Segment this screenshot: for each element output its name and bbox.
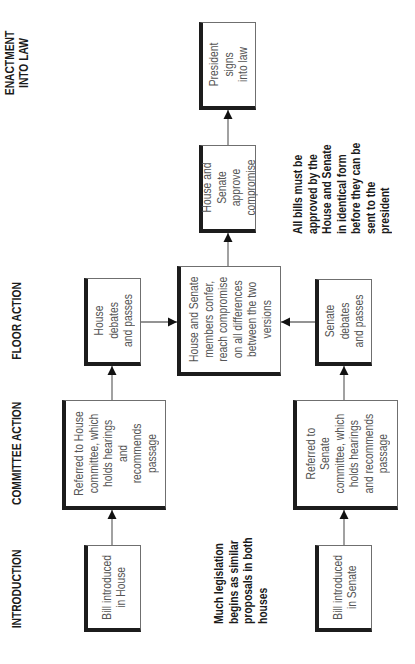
text-line: and passes	[121, 287, 136, 355]
text-line: reach compromise	[216, 277, 231, 363]
stage-heading-introduction: INTRODUCTION	[10, 544, 24, 634]
node-senate-debates: Senate debates and passes	[315, 279, 372, 366]
node-bill-introduced-senate-text: Bill introduced in Senate	[331, 553, 360, 621]
stage-heading-committee-action: COMMITTEE ACTION	[10, 405, 24, 505]
text-line: House and Senate	[320, 122, 335, 234]
text-line: Bill introduced	[331, 555, 346, 620]
text-line: passage	[145, 410, 160, 497]
stage-heading-introduction-text: INTRODUCTION	[10, 550, 24, 629]
text-line: holds hearings	[347, 414, 362, 494]
node-approve-compromise-text: House and Senate approve compromise	[200, 152, 258, 223]
text-line: Bill introduced	[100, 555, 115, 620]
node-senate-committee: Referred to Senate committee, which hold…	[293, 400, 398, 510]
text-line: passage	[376, 414, 391, 494]
text-line: holds hearings and	[101, 410, 130, 497]
text-line: and recommends	[362, 414, 377, 494]
stage-heading-enactment: ENACTMENT INTO LAW	[3, 29, 31, 96]
node-house-debates-text: House debates and passes	[92, 285, 136, 356]
text-line: All bills must be	[291, 122, 306, 234]
stage-heading-floor-action: FLOOR ACTION	[10, 281, 24, 361]
node-president-signs: President signs into law	[199, 22, 256, 110]
text-line: recommends	[130, 410, 145, 497]
text-line: in House	[114, 555, 129, 620]
text-line: into law	[236, 31, 251, 99]
node-house-debates: House debates and passes	[84, 278, 141, 366]
text-line: Much legislation	[212, 529, 227, 624]
stage-heading-floor-action-text: FLOOR ACTION	[10, 282, 24, 360]
text-line: between the two	[245, 277, 260, 363]
text-line: proposals in both	[241, 529, 256, 624]
text-line: Senate debates	[323, 287, 352, 354]
text-line: Referred to House	[72, 410, 87, 497]
text-line: House debates	[92, 287, 121, 355]
text-line: in identical form	[335, 122, 350, 234]
text-line: president	[378, 122, 393, 234]
node-bill-introduced-house: Bill introduced in House	[84, 545, 141, 632]
text-line: and passes	[352, 287, 367, 354]
text-line: members confer,	[202, 277, 217, 363]
text-line: compromise	[244, 154, 259, 222]
stage-heading-enactment-line2: INTO LAW	[17, 29, 31, 96]
node-president-signs-text: President signs into law	[207, 29, 251, 100]
text-line: House and	[200, 154, 215, 222]
node-approve-compromise: House and Senate approve compromise	[199, 145, 256, 233]
text-line: House and Senate	[187, 277, 202, 363]
text-line: Senate approve	[215, 154, 244, 222]
text-line: begins as similar	[227, 529, 242, 624]
node-house-committee-text: Referred to House committee, which holds…	[72, 408, 159, 498]
note-similar-proposals: Much legislation begins as similar propo…	[212, 529, 270, 624]
text-line: versions	[260, 277, 275, 363]
text-line: committee, which	[87, 410, 102, 497]
node-house-committee: Referred to House committee, which holds…	[62, 400, 166, 510]
text-line: before they can be	[349, 122, 364, 234]
text-line: in Senate	[345, 555, 360, 620]
text-line: committee, which	[333, 414, 348, 494]
text-line: sent to the	[364, 122, 379, 234]
note-identical-form: All bills must be approved by the House …	[291, 122, 393, 234]
node-conference-compromise: House and Senate members confer, reach c…	[177, 266, 281, 376]
text-line: Referred to	[304, 414, 319, 494]
stage-heading-enactment-line1: ENACTMENT	[3, 29, 17, 96]
text-line: on all differences	[231, 277, 246, 363]
node-senate-debates-text: Senate debates and passes	[323, 286, 367, 357]
text-line: President signs	[207, 31, 236, 99]
node-bill-introduced-senate: Bill introduced in Senate	[315, 545, 372, 632]
text-line: approved by the	[306, 122, 321, 234]
node-conference-compromise-text: House and Senate members confer, reach c…	[187, 275, 274, 364]
legislative-process-flowchart: INTRODUCTION COMMITTEE ACTION FLOOR ACTI…	[0, 0, 415, 664]
text-line: Senate	[318, 414, 333, 494]
stage-heading-committee-action-text: COMMITTEE ACTION	[10, 402, 24, 505]
node-bill-introduced-house-text: Bill introduced in House	[100, 553, 129, 621]
text-line: houses	[256, 529, 271, 624]
node-senate-committee-text: Referred to Senate committee, which hold…	[304, 412, 391, 495]
